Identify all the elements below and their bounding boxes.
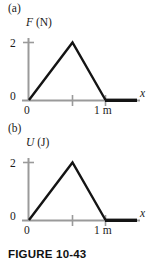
panel-a-x-tick-label-1m: 1 m	[94, 105, 112, 117]
panel-b-y-tick-label-0: 0	[10, 211, 16, 223]
panel-a-y-tick-label-0: 0	[10, 91, 16, 103]
panel-a-x-tick-label-0: 0	[24, 105, 30, 117]
panel-a-plot: F (N) 2 0 0 1 m x	[0, 16, 156, 120]
panel-b-y-axis-unit: (J)	[37, 136, 49, 148]
figure-10-43: (a) F (N) 2 0	[0, 0, 156, 270]
panel-b-plot: U (J) 2 0 0 1 m x	[0, 136, 156, 240]
panel-a-y-axis-title: F (N)	[26, 17, 52, 29]
panel-a-data-curve	[29, 43, 106, 101]
panel-a-y-tick-label-2: 2	[10, 38, 16, 50]
panel-a-label: (a)	[8, 3, 21, 15]
panel-b-label: (b)	[8, 123, 21, 135]
panel-b-data-curve	[29, 163, 106, 221]
panel-b-x-tick-label-1m: 1 m	[94, 225, 112, 237]
panel-b-x-axis-name: x	[140, 208, 145, 220]
figure-caption: FIGURE 10-43	[8, 249, 86, 261]
panel-a-y-axis-symbol: F	[26, 16, 33, 28]
panel-b: (b) U (J) 2 0 0 1 m x	[0, 120, 156, 248]
panel-a-x-axis-name: x	[140, 88, 145, 100]
panel-b-x-tick-label-0: 0	[24, 225, 30, 237]
panel-b-y-tick-label-2: 2	[10, 158, 16, 170]
panel-a-y-axis-unit: (N)	[36, 16, 52, 28]
panel-b-y-axis-title: U (J)	[26, 137, 49, 149]
panel-a: (a) F (N) 2 0	[0, 0, 156, 128]
